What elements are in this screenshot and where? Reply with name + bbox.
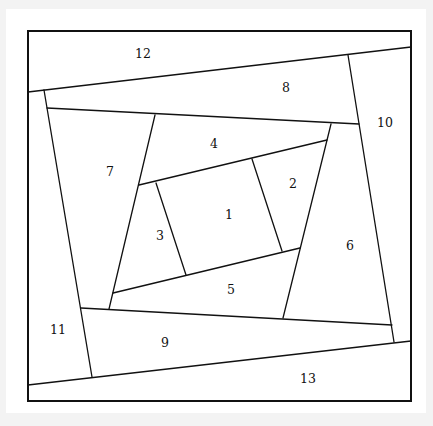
- seam-10: [348, 55, 394, 342]
- seam-7: [109, 115, 155, 309]
- segment-label-13: 13: [300, 371, 316, 386]
- segment-label-6: 6: [346, 238, 354, 253]
- segment-label-1: 1: [225, 207, 233, 222]
- segment-label-5: 5: [227, 282, 235, 297]
- segment-label-9: 9: [161, 335, 169, 350]
- segment-label-10: 10: [377, 115, 393, 130]
- diagram-canvas: 12345678910111213: [0, 0, 433, 426]
- segment-label-4: 4: [210, 136, 218, 151]
- segment-label-3: 3: [156, 228, 164, 243]
- seam-5: [113, 248, 300, 293]
- segment-label-8: 8: [282, 80, 290, 95]
- seam-6: [283, 124, 331, 318]
- segment-label-2: 2: [289, 176, 297, 191]
- segment-label-11: 11: [50, 322, 66, 337]
- segment-label-7: 7: [106, 164, 114, 179]
- seam-4: [139, 140, 327, 185]
- segment-label-12: 12: [135, 46, 151, 61]
- seam-13: [28, 341, 411, 385]
- seam-12: [28, 47, 411, 92]
- seam-2: [252, 159, 282, 251]
- piecing-diagram: 12345678910111213: [0, 0, 433, 426]
- seam-8: [47, 108, 359, 124]
- seam-9: [81, 308, 392, 325]
